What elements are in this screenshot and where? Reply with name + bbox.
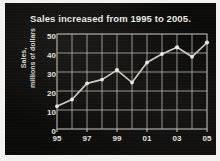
x-tick-label-97: 97 — [78, 134, 96, 143]
bottom-caption: ... — [8, 154, 208, 161]
x-tick-label-01: 01 — [138, 134, 156, 143]
x-tick-label-05: 05 — [198, 134, 216, 143]
chart-screenshot: Sales increased from 1995 to 2005. Sales… — [0, 0, 220, 161]
x-tick-label-95: 95 — [48, 134, 66, 143]
x-tick-label-99: 99 — [108, 134, 126, 143]
x-tick-label-03: 03 — [168, 134, 186, 143]
chart-panel: Sales increased from 1995 to 2005. Sales… — [5, 3, 216, 155]
x-axis-tick-labels: 95 97 99 01 03 05 — [5, 3, 216, 155]
